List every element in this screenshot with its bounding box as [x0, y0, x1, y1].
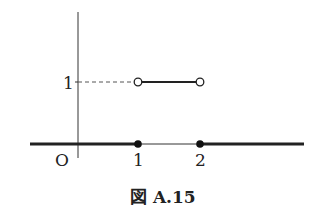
- filled-point-2: [196, 140, 204, 148]
- y-label-1: 1: [63, 73, 74, 93]
- x-label-1: 1: [133, 150, 144, 170]
- filled-point-1: [134, 140, 142, 148]
- open-point-2: [196, 78, 204, 86]
- x-label-2: 2: [195, 150, 206, 170]
- open-point-1: [134, 78, 142, 86]
- step-function-graph: 1 O 1 2 図 A.15: [0, 0, 313, 222]
- figure-caption: 図 A.15: [130, 187, 196, 207]
- origin-label: O: [55, 150, 69, 170]
